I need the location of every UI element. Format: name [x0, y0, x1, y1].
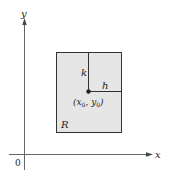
y-axis-arrow-icon [22, 18, 26, 25]
center-point [86, 89, 90, 93]
h-label: h [102, 80, 108, 91]
x-axis-arrow-icon [146, 152, 153, 156]
y-axis-label: y [20, 8, 27, 19]
region-label: R [60, 119, 69, 130]
origin-label: 0 [15, 158, 21, 168]
diagram-canvas: y x 0 k h (x0, y0) R [0, 0, 170, 179]
diagram-svg: y x 0 k h (x0, y0) R [0, 0, 170, 179]
k-label: k [81, 67, 87, 78]
point-label: (x0, y0) [73, 97, 104, 108]
x-axis-label: x [155, 149, 161, 160]
